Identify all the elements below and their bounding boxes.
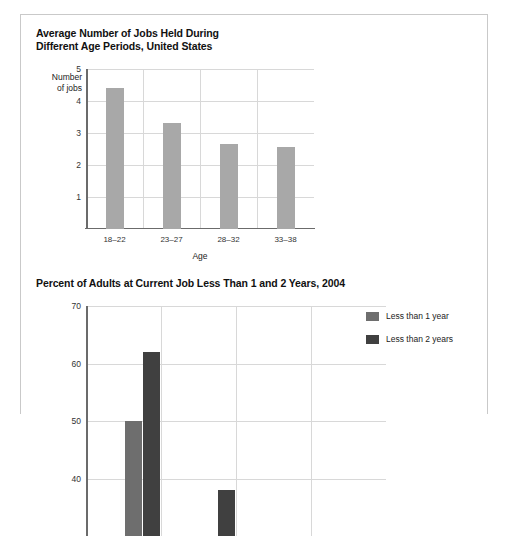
figure2-vertical-gridline <box>161 306 162 536</box>
figure2-plot-area: 40506070 <box>86 306 386 417</box>
figure2-y-axis <box>86 306 88 536</box>
figure2-legend-label: Less than 1 year <box>386 311 449 321</box>
figure1-vertical-gridline <box>257 69 258 229</box>
figure2-legend-item: Less than 2 years <box>366 334 491 344</box>
figure1-bar <box>106 88 124 229</box>
figure1-y-tick-label: 3 <box>76 128 81 138</box>
figure2-vertical-gridline <box>311 306 312 536</box>
figure1-y-axis-label-line2: of jobs <box>36 83 82 94</box>
figure2-vertical-gridline <box>236 306 237 536</box>
figure2-bar <box>125 421 142 536</box>
figure1-x-tick-label: 23–27 <box>160 235 182 244</box>
figure1-plot-area: 1234518–2223–2728–3233–38 <box>86 69 314 229</box>
figure1-x-tick-label: 28–32 <box>217 235 239 244</box>
figure2-y-tick-label: 40 <box>72 474 81 484</box>
figure2-legend-label: Less than 2 years <box>386 334 453 344</box>
figure2-legend: Less than 1 yearLess than 2 years <box>366 311 491 357</box>
document-page: Average Number of Jobs Held During Diffe… <box>20 14 488 414</box>
figure1-vertical-gridline <box>200 69 201 229</box>
legend-swatch-icon <box>366 335 379 344</box>
figure2-title: Percent of Adults at Current Job Less Th… <box>36 277 456 290</box>
figure1-y-axis <box>86 69 88 229</box>
legend-swatch-icon <box>366 312 379 321</box>
figure2-legend-item: Less than 1 year <box>366 311 491 321</box>
figure1-bar <box>163 123 181 229</box>
figure1-title: Average Number of Jobs Held During Diffe… <box>36 27 356 53</box>
figure2-y-tick-label: 50 <box>72 416 81 426</box>
figure1-vertical-gridline <box>143 69 144 229</box>
figure1-bar <box>220 144 238 229</box>
figure2-bar <box>143 352 160 536</box>
figure1-x-axis-label: Age <box>86 251 314 261</box>
figure2-y-tick-label: 70 <box>72 301 81 311</box>
figure2-bar <box>218 490 235 536</box>
figure1-y-tick-label: 2 <box>76 160 81 170</box>
figure1-y-tick-label: 5 <box>76 64 81 74</box>
figure2-y-tick-label: 60 <box>72 359 81 369</box>
figure1-y-axis-label-line1: Number <box>36 72 82 83</box>
figure1-y-tick-label: 1 <box>76 192 81 202</box>
figure1-x-tick-label: 33–38 <box>274 235 296 244</box>
figure1-y-tick-label: 4 <box>76 96 81 106</box>
figure1-x-tick-label: 18–22 <box>103 235 125 244</box>
figure1-title-line2: Different Age Periods, United States <box>36 40 356 53</box>
figure1-title-line1: Average Number of Jobs Held During <box>36 27 356 40</box>
figure1-y-axis-label: Number of jobs <box>36 72 82 94</box>
figure1-bar <box>277 147 295 229</box>
